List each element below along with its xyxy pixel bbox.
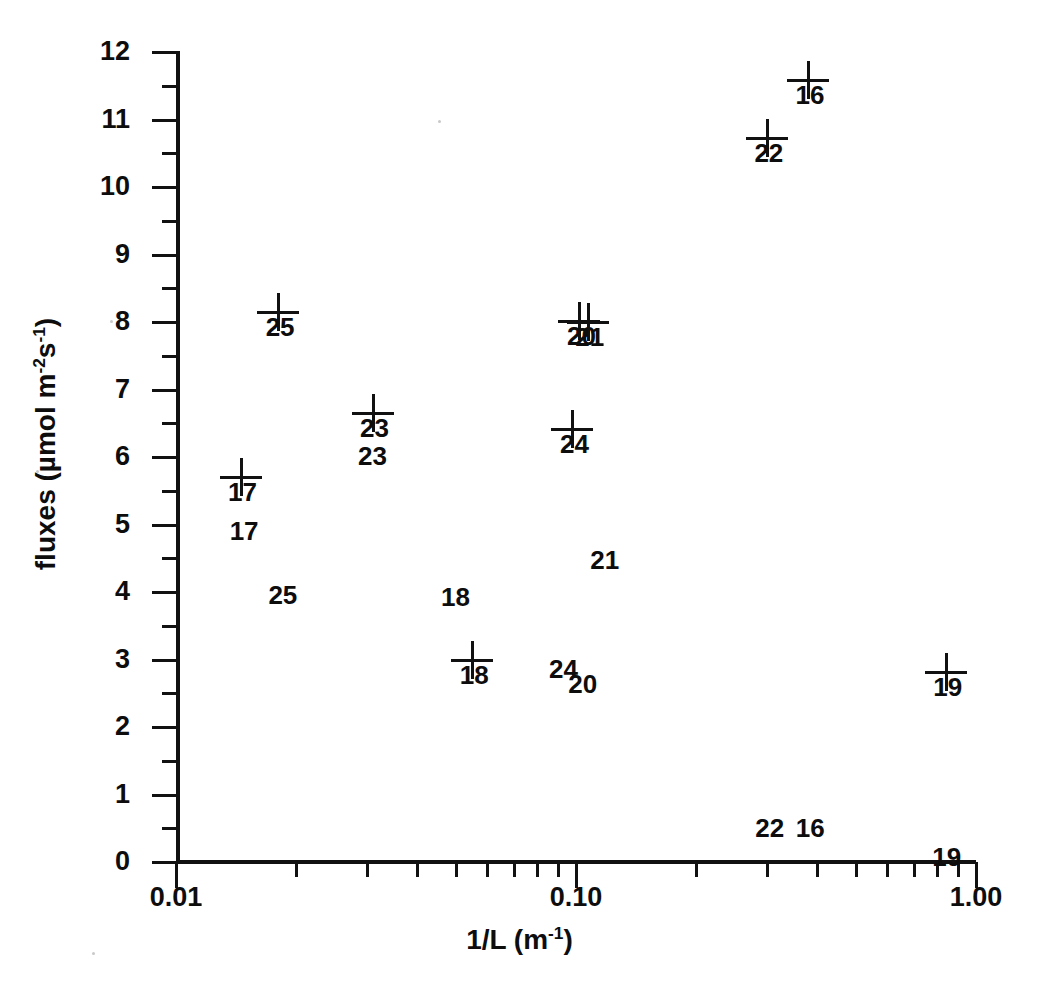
x-axis-tick-label: 0.10	[516, 884, 636, 911]
y-axis-tick-minor	[162, 152, 180, 155]
data-point-label: 25	[259, 314, 301, 340]
data-point-label: 18	[453, 662, 495, 688]
y-axis-tick-label: 7	[84, 376, 130, 403]
y-axis-tick-major	[152, 524, 180, 527]
x-axis-tick-minor	[455, 862, 458, 877]
x-axis-tick-minor	[366, 862, 369, 877]
y-axis-tick-major	[152, 119, 180, 122]
x-axis-title: 1/L (m-1)	[0, 924, 1039, 956]
y-axis-tick-minor	[162, 625, 180, 628]
x-axis-tick-minor	[536, 862, 539, 877]
y-axis-tick-major	[152, 794, 180, 797]
scan-speckle	[110, 320, 113, 323]
data-point-label: 24	[553, 431, 595, 457]
y-axis-tick-major	[152, 726, 180, 729]
y-axis-tick-label: 12	[84, 38, 130, 65]
x-axis-tick-label: 1.00	[916, 884, 1036, 911]
y-axis-tick-minor	[162, 490, 180, 493]
scatter-plot-figure: 01234567891011120.010.101.00 16222520212…	[0, 0, 1039, 997]
x-axis-tick-minor	[766, 862, 769, 877]
data-point-label: 19	[927, 674, 969, 700]
x-axis-tick-label: 0.01	[116, 884, 236, 911]
data-annotation-label: 20	[553, 671, 613, 697]
x-axis-tick-minor	[486, 862, 489, 877]
y-axis-tick-major	[152, 254, 180, 257]
y-axis-tick-major	[152, 186, 180, 189]
data-annotation-label: 19	[917, 844, 977, 870]
y-axis-title: fluxes (µmol m-2s-1)	[30, 184, 62, 704]
y-axis-tick-major	[152, 659, 180, 662]
y-axis-tick-minor	[162, 220, 180, 223]
y-axis-tick-minor	[162, 827, 180, 830]
y-axis-tick-label: 2	[84, 713, 130, 740]
x-axis-tick-minor	[855, 862, 858, 877]
data-annotation-label: 17	[214, 518, 274, 544]
y-axis-tick-label: 4	[84, 578, 130, 605]
x-axis-tick-minor	[557, 862, 560, 877]
scan-speckle	[36, 470, 39, 473]
data-point-label: 23	[354, 415, 396, 441]
data-annotation-label: 21	[575, 547, 635, 573]
y-axis-tick-major	[152, 591, 180, 594]
x-axis-tick-minor	[913, 862, 916, 877]
data-point-label: 21	[569, 324, 611, 350]
data-point-label: 17	[222, 479, 264, 505]
x-axis-tick-minor	[695, 862, 698, 877]
data-annotation-label: 16	[780, 815, 840, 841]
x-axis-tick-minor	[513, 862, 516, 877]
y-axis-tick-minor	[162, 287, 180, 290]
y-axis-tick-label: 9	[84, 241, 130, 268]
scan-speckle	[438, 120, 441, 123]
y-axis-tick-label: 6	[84, 443, 130, 470]
x-axis-tick-minor	[816, 862, 819, 877]
x-axis-tick-minor	[295, 862, 298, 877]
y-axis-tick-label: 3	[84, 646, 130, 673]
y-axis-tick-label: 5	[84, 511, 130, 538]
y-axis-tick-major	[152, 389, 180, 392]
y-axis-tick-minor	[162, 692, 180, 695]
data-annotation-label: 23	[343, 443, 403, 469]
y-axis-tick-minor	[162, 760, 180, 763]
data-point-label: 22	[748, 140, 790, 166]
y-axis-tick-label: 1	[84, 781, 130, 808]
y-axis-tick-label: 0	[84, 848, 130, 875]
y-axis-tick-major	[152, 51, 180, 54]
data-annotation-label: 25	[253, 582, 313, 608]
data-point-label: 16	[789, 82, 831, 108]
x-axis-tick-minor	[416, 862, 419, 877]
y-axis-tick-major	[152, 456, 180, 459]
x-axis-tick-minor	[886, 862, 889, 877]
y-axis-tick-minor	[162, 85, 180, 88]
data-annotation-label: 18	[426, 584, 486, 610]
scan-speckle	[92, 952, 95, 955]
y-axis-tick-minor	[162, 557, 180, 560]
y-axis-tick-major	[152, 321, 180, 324]
y-axis-tick-label: 8	[84, 308, 130, 335]
y-axis-tick-label: 10	[84, 173, 130, 200]
y-axis-tick-minor	[162, 422, 180, 425]
y-axis-tick-minor	[162, 355, 180, 358]
y-axis-tick-label: 11	[84, 106, 130, 133]
